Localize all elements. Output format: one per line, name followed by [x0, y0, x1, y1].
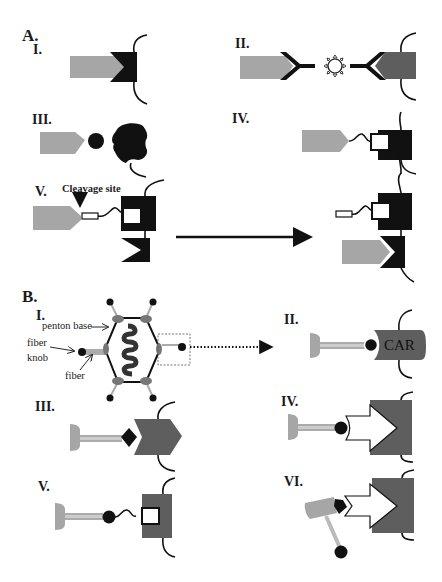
panel-b-vi	[305, 470, 414, 559]
panel-b-iii	[70, 402, 182, 471]
detached-knob	[335, 546, 348, 559]
ligand-knob	[88, 133, 104, 149]
ligand-arrow	[33, 206, 81, 230]
panel-a-ii	[240, 33, 416, 100]
penton-base-label: penton base	[42, 320, 92, 331]
ligand-arrow	[302, 130, 349, 152]
chevron-receptor	[134, 419, 182, 455]
genome-coil	[124, 326, 136, 374]
panel-label-a-ii: II.	[235, 36, 249, 52]
receptor-lower-notched	[121, 238, 150, 262]
panel-b-i	[50, 299, 270, 402]
membrane	[130, 163, 146, 177]
panel-a-v-after	[336, 148, 414, 282]
wavy-linker	[98, 208, 123, 217]
diamond-ligand	[121, 428, 137, 447]
wavy-linker	[352, 206, 373, 214]
panel-label-b-vi: VI.	[284, 474, 303, 490]
panel-a-iv	[302, 112, 416, 174]
fiber-knob-label-line1: fiber	[27, 337, 47, 348]
docked-square	[371, 134, 389, 150]
fiber-knob	[103, 511, 116, 524]
wavy-linker	[349, 134, 371, 141]
panel-label-b-v: V.	[38, 479, 50, 495]
panel-a-iii	[40, 123, 147, 177]
docked-square	[142, 508, 159, 524]
released-linker	[336, 211, 352, 217]
ligand-arrow-left	[240, 56, 293, 79]
ligand-arrow	[40, 132, 85, 154]
panel-label-a-i: I.	[33, 42, 42, 58]
fiber-knob	[335, 422, 348, 435]
panel-label-a-iv: IV.	[232, 111, 249, 127]
fiber-label: fiber	[65, 370, 85, 381]
zoom-box	[158, 334, 190, 365]
panel-label-b-ii: II.	[284, 312, 298, 328]
section-label-b: B.	[22, 287, 38, 307]
docked-square	[123, 208, 141, 224]
receptor-star	[112, 123, 147, 163]
star-bridge-icon	[324, 55, 346, 77]
panel-label-a-v: V.	[35, 184, 47, 200]
panel-b-iv	[288, 392, 413, 462]
figure-canvas	[0, 0, 442, 582]
fiber-shaft	[310, 333, 320, 358]
fiber-knob	[365, 339, 378, 352]
displaced-fiber	[305, 497, 337, 519]
cleavage-site-label: Cleavage site	[62, 183, 121, 194]
ligand-arrow-bound	[342, 240, 390, 264]
fiber-knob-label-line2: knob	[27, 352, 48, 363]
cleavable-linker	[82, 213, 98, 219]
panel-label-a-iii: III.	[32, 112, 52, 128]
fiber-knob-dot	[78, 348, 86, 356]
docked-square	[372, 203, 390, 219]
panel-label-b-iii: III.	[35, 399, 55, 415]
panel-label-b-iv: IV.	[281, 394, 298, 410]
panel-b-v	[55, 478, 175, 557]
car-label: CAR	[384, 337, 415, 354]
wavy-linker	[115, 510, 136, 517]
panel-a-i	[70, 35, 147, 104]
